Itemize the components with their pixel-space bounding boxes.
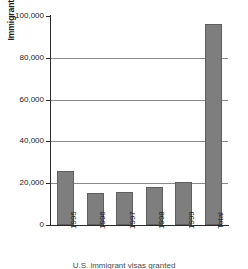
x-tick-label: 1999 xyxy=(188,211,196,229)
gridline xyxy=(51,100,228,101)
y-tick-label: 100,000 xyxy=(0,12,44,20)
y-tick-label: 80,000 xyxy=(0,54,44,62)
x-tick-label: 1995 xyxy=(70,211,78,229)
x-tick-label: 1997 xyxy=(129,211,137,229)
bar xyxy=(205,24,222,225)
x-tick-label: 1998 xyxy=(158,211,166,229)
plot-area xyxy=(51,16,228,225)
gridline xyxy=(51,141,228,142)
y-tick-label: 60,000 xyxy=(0,96,44,104)
y-tick-label: 20,000 xyxy=(0,179,44,187)
gridline xyxy=(51,183,228,184)
y-tick-label: 40,000 xyxy=(0,137,44,145)
y-axis-title: Immigrant visas granted xyxy=(6,0,17,56)
bar-chart-figure: Immigrant visas granted 020,00040,00060,… xyxy=(0,0,248,269)
x-tick-label: Total xyxy=(217,212,225,229)
figure-caption: U.S. immigrant visas granted xyxy=(0,261,248,269)
y-tick-mark xyxy=(46,225,51,226)
y-tick-label: 0 xyxy=(0,221,44,229)
gridline xyxy=(51,58,228,59)
gridlines xyxy=(51,16,228,225)
x-tick-label: 1996 xyxy=(99,211,107,229)
